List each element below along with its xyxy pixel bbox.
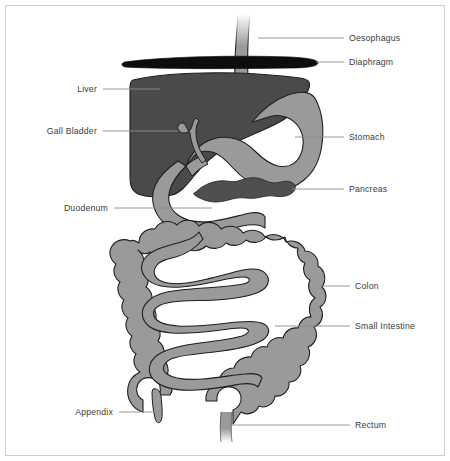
label-rectum: Rectum (355, 420, 386, 430)
label-liver: Liver (77, 84, 97, 94)
digestive-system-figure: Oesophagus Diaphragm Liver Gall Bladder … (0, 0, 450, 461)
label-duodenum: Duodenum (64, 203, 108, 213)
organ-appendix (152, 389, 162, 423)
label-stomach: Stomach (349, 132, 385, 142)
label-colon: Colon (355, 281, 379, 291)
label-appendix: Appendix (75, 407, 113, 417)
label-small-intestine: Small Intestine (355, 321, 415, 331)
organ-diaphragm (122, 56, 318, 68)
anatomy-diagram: Oesophagus Diaphragm Liver Gall Bladder … (0, 0, 450, 461)
organ-rectum (220, 412, 232, 442)
label-oesophagus: Oesophagus (349, 33, 401, 43)
label-pancreas: Pancreas (349, 184, 388, 194)
label-diaphragm: Diaphragm (349, 57, 393, 67)
label-gall-bladder: Gall Bladder (47, 126, 97, 136)
organ-colon (110, 220, 326, 424)
